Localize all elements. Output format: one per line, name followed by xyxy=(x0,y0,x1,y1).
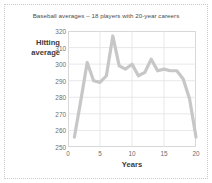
chart-title: Baseball averages – 18 players with 20-y… xyxy=(0,12,212,19)
x-axis-tick-label: 0 xyxy=(57,150,79,157)
x-axis-title: Years xyxy=(68,160,196,169)
x-axis-tick-label: 15 xyxy=(153,150,175,157)
chart-figure: Baseball averages – 18 players with 20-y… xyxy=(0,0,212,183)
series-line-hitting-average xyxy=(74,36,196,137)
y-axis-tick-label: 310 xyxy=(44,44,66,51)
y-axis-tick-label: 290 xyxy=(44,77,66,84)
data-line-series xyxy=(68,31,196,147)
x-axis-tick-label: 20 xyxy=(185,150,207,157)
y-axis-tick-label: 280 xyxy=(44,94,66,101)
y-axis-tick-label: 270 xyxy=(44,111,66,118)
y-axis-tick-labels: 250260270280290300310320 xyxy=(42,31,66,147)
x-axis-tick-label: 10 xyxy=(121,150,143,157)
y-axis-tick-label: 320 xyxy=(44,28,66,35)
x-axis-tick-label: 5 xyxy=(89,150,111,157)
y-axis-tick-label: 300 xyxy=(44,61,66,68)
y-axis-tick-label: 260 xyxy=(44,127,66,134)
plot-area-wrapper xyxy=(68,31,196,147)
